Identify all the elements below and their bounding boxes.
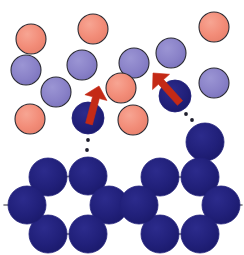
guide-dot-right-2	[190, 118, 194, 122]
purple-monomer-2	[67, 50, 97, 80]
node-R4	[181, 215, 219, 253]
pink-monomer-1	[16, 24, 46, 54]
pink-monomer-5	[15, 104, 45, 134]
pink-monomer-6	[118, 105, 148, 135]
node-L6	[8, 186, 46, 224]
guide-dot-left-2	[85, 148, 89, 152]
diagram-canvas: Monomer attachment to growing hexagonal …	[0, 0, 244, 255]
molecular-assembly-svg	[0, 0, 244, 255]
pink-monomer-2	[78, 14, 108, 44]
guide-dot-left-1	[86, 138, 90, 142]
purple-monomer-5	[41, 77, 71, 107]
purple-monomer-6	[199, 68, 229, 98]
pink-monomer-3	[199, 12, 229, 42]
purple-monomer-4	[156, 38, 186, 68]
node-R6	[120, 186, 158, 224]
purple-monomer-1	[11, 55, 41, 85]
pink-monomer-4	[106, 73, 136, 103]
node-L4	[69, 215, 107, 253]
node-pendant-right	[186, 123, 224, 161]
guide-dot-right-1	[184, 112, 188, 116]
